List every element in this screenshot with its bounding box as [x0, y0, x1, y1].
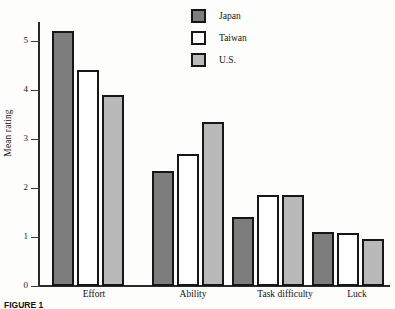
- y-tick-label-3: 3: [6, 134, 28, 143]
- legend-label-japan: Japan: [219, 11, 241, 21]
- legend-swatch-us: [191, 53, 206, 67]
- y-tick-label-4: 4: [6, 85, 28, 94]
- bar-japan-effort: [52, 31, 74, 286]
- y-tick-label-5: 5: [6, 36, 28, 45]
- legend-label-us: U.S.: [219, 55, 236, 65]
- legend-swatch-japan: [191, 9, 206, 23]
- x-axis-label-ability: Ability: [180, 289, 207, 300]
- x-axis-label-effort: Effort: [83, 289, 106, 300]
- y-axis-title: Mean rating: [3, 98, 13, 168]
- y-tick-label-wrap-1: 1: [0, 232, 28, 242]
- y-tick-label-wrap-5: 5: [0, 36, 28, 46]
- legend-item-japan: Japan: [191, 6, 311, 26]
- bar-us-effort: [102, 95, 124, 286]
- y-tick-label-1: 1: [6, 232, 28, 241]
- bar-taiwan-ability: [177, 154, 199, 286]
- x-axis-label-luck: Luck: [347, 289, 367, 300]
- figure-caption: FIGURE 1: [4, 300, 43, 309]
- bar-japan-luck: [312, 232, 334, 286]
- x-axis-label-task-difficulty: Task difficulty: [257, 289, 312, 300]
- legend-item-us: U.S.: [191, 50, 311, 70]
- y-tick-label-wrap-2: 2: [0, 183, 28, 193]
- y-tick-label-wrap-0: 0: [0, 281, 28, 291]
- bar-taiwan-task-difficulty: [257, 195, 279, 286]
- figure-container: Mean rating 012345 EffortAbilityTask dif…: [0, 0, 395, 309]
- y-tick-label-2: 2: [6, 183, 28, 192]
- bar-us-task-difficulty: [282, 195, 304, 286]
- bar-taiwan-effort: [77, 70, 99, 286]
- bar-us-luck: [362, 239, 384, 286]
- bar-japan-task-difficulty: [232, 217, 254, 286]
- bar-us-ability: [202, 122, 224, 286]
- legend-item-taiwan: Taiwan: [191, 28, 311, 48]
- y-tick-label-0: 0: [6, 281, 28, 290]
- legend-label-taiwan: Taiwan: [219, 33, 247, 43]
- figure-caption-number: FIGURE 1: [4, 300, 43, 309]
- y-tick-label-wrap-4: 4: [0, 85, 28, 95]
- y-tick-label-wrap-3: 3: [0, 134, 28, 144]
- legend-swatch-taiwan: [191, 31, 206, 45]
- bar-taiwan-luck: [337, 233, 359, 286]
- legend: Japan Taiwan U.S.: [191, 6, 311, 72]
- bar-japan-ability: [152, 171, 174, 286]
